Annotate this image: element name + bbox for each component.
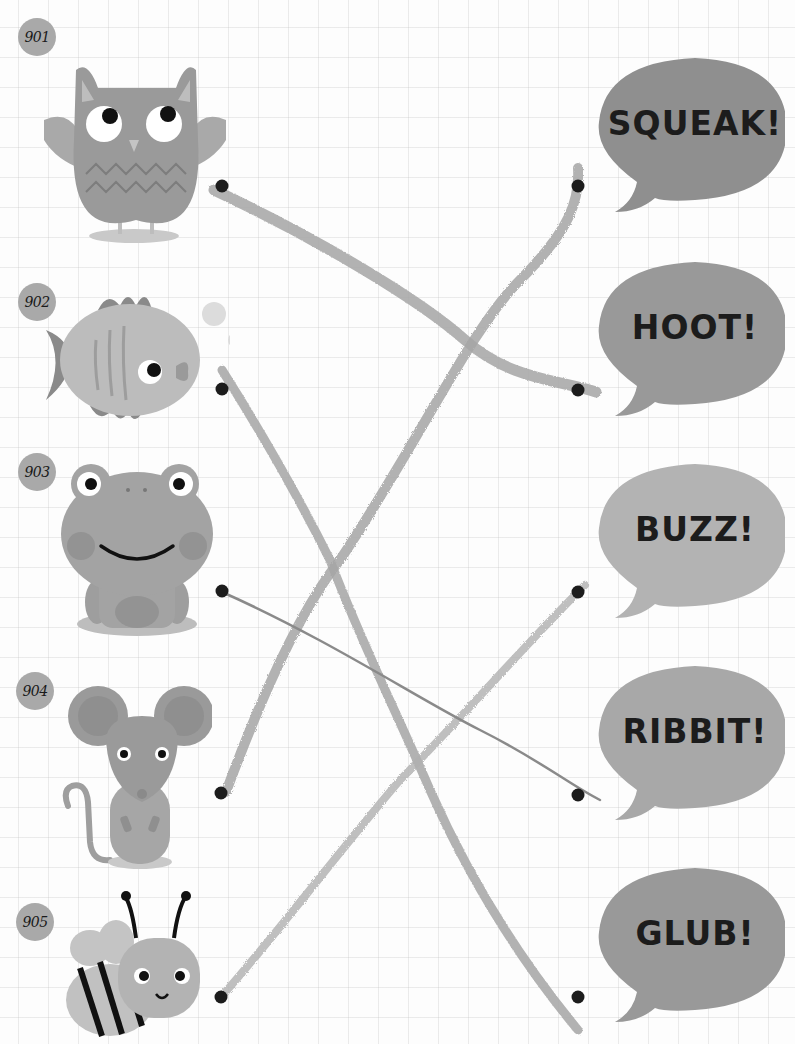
number-label: 903 [24,464,49,480]
connect-dot-hoot[interactable] [572,384,585,397]
connect-dot-901[interactable] [216,180,229,193]
sound-label: BUZZ! [605,510,785,549]
connect-dot-902[interactable] [216,383,229,396]
number-label: 904 [22,683,47,699]
number-label: 905 [22,914,47,930]
sound-label: HOOT! [605,308,785,347]
connect-dot-904[interactable] [215,787,228,800]
sound-bubble-glub[interactable]: GLUB! [595,862,785,1022]
sound-bubble-buzz[interactable]: BUZZ! [595,458,785,618]
connect-dot-905[interactable] [215,991,228,1004]
matching-worksheet: 901 902 903 904 905 [0,0,795,1044]
connect-dot-glub[interactable] [572,991,585,1004]
bee-icon [66,888,206,1038]
number-label: 901 [24,29,49,45]
sound-bubble-squeak[interactable]: SQUEAK! [595,52,785,212]
line-mouse-to-squeak [226,168,578,792]
mouse-icon [62,682,212,872]
number-badge-904: 904 [16,672,54,710]
connect-dot-903[interactable] [216,585,229,598]
fish-icon [40,290,230,430]
owl-icon [36,50,236,250]
sound-bubble-hoot[interactable]: HOOT! [595,256,785,416]
sound-bubble-ribbit[interactable]: RIBBIT! [595,660,785,820]
number-badge-903: 903 [18,453,56,491]
line-owl-to-hoot [214,190,596,392]
connect-dot-ribbit[interactable] [572,789,585,802]
frog-icon [55,462,215,642]
sound-label: SQUEAK! [605,104,785,143]
sound-label: RIBBIT! [605,712,785,751]
number-badge-905: 905 [16,903,54,941]
sound-label: GLUB! [605,914,785,953]
connect-dot-buzz[interactable] [572,586,585,599]
line-bee-to-buzz [222,585,585,996]
connect-dot-squeak[interactable] [572,180,585,193]
